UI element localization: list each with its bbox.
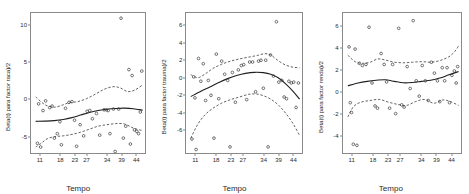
data-point [388,107,391,110]
x-tick-label: 18 [370,157,377,163]
data-point [122,137,125,140]
x-tick-mark [86,153,87,156]
x-tick-label: 44 [133,157,140,163]
data-point [36,142,39,145]
data-point [195,148,198,151]
data-point [71,100,74,103]
x-tick-mark [372,153,373,156]
upper-confidence-band [191,54,300,78]
data-point [394,112,397,115]
data-point [262,87,265,90]
data-point [42,109,45,112]
data-point [297,82,300,85]
x-axis-label: Tempo [156,184,312,193]
data-point [224,73,227,76]
x-tick-mark [216,153,217,156]
x-tick-mark [451,153,452,156]
x-tick-label: 39 [275,157,282,163]
figure-root: Beta(t) para factor raca)/2-505101118232… [0,0,469,194]
x-tick-label: 11 [192,157,198,163]
data-point [361,64,364,67]
data-point [400,104,403,107]
x-tick-mark [107,153,108,156]
chart-canvas [31,13,145,153]
data-point [255,90,258,93]
x-tick-mark [351,153,352,156]
data-point [411,19,414,22]
x-tick-mark [263,153,264,156]
plot-area: -4-2024611182327343944 [342,12,462,154]
data-point [194,97,197,100]
data-point [373,105,376,108]
data-point [350,111,353,114]
data-point [197,57,200,60]
data-point [39,146,42,149]
data-point [246,98,249,101]
data-point [205,99,208,102]
data-point [56,132,59,135]
data-point [364,63,367,66]
x-tick-mark [60,153,61,156]
fitted-curve [347,72,458,86]
data-point [448,101,451,104]
fitted-curve [36,108,143,121]
data-point [347,46,350,49]
data-point [370,82,373,85]
data-point [229,146,232,149]
x-tick-label: 27 [83,157,90,163]
x-tick-label: 18 [57,157,64,163]
x-tick-mark [436,153,437,156]
data-point [64,107,67,110]
x-tick-label: 34 [104,157,111,163]
data-point [441,66,444,69]
data-point [109,132,112,135]
data-point [79,123,82,126]
data-point [453,70,456,73]
x-axis-label: Tempo [313,184,469,193]
chart-canvas [186,13,302,153]
x-tick-label: 27 [397,157,404,163]
data-point [91,117,94,120]
x-axis-label: Tempo [0,184,156,193]
x-tick-label: 34 [260,157,267,163]
data-point [73,119,76,122]
data-point [385,81,388,84]
x-tick-label: 23 [72,157,79,163]
data-point [44,100,47,103]
x-tick-mark [400,153,401,156]
x-tick-label: 44 [290,157,297,163]
plot-area: -6-4-2024611182327343944 [185,12,303,154]
data-point [391,63,394,66]
data-point [227,79,230,82]
data-point [231,71,234,74]
data-point [456,65,459,68]
data-point [88,109,91,112]
data-point [408,87,411,90]
data-point [237,69,240,72]
data-point [82,135,85,138]
data-point [405,65,408,68]
data-point [379,52,382,55]
data-point [114,150,117,153]
x-tick-label: 27 [239,157,246,163]
chart-panel-2: Beta(t) para factor renda)/2-4-202461118… [313,0,469,194]
data-point [352,143,355,146]
data-point [295,106,298,109]
data-point [234,101,237,104]
data-point [37,103,40,106]
data-point [436,79,439,82]
data-point [397,27,400,30]
data-point [137,132,140,135]
data-point [53,137,56,140]
data-point [433,72,436,75]
data-point [278,81,281,84]
y-axis-label: Beta(t) para factor raca)/2 [0,0,14,194]
x-tick-mark [421,153,422,156]
data-point [139,111,142,114]
data-point [421,64,424,67]
x-tick-label: 23 [385,157,392,163]
x-tick-mark [195,153,196,156]
x-tick-label: 39 [433,157,440,163]
data-point [59,120,62,123]
x-tick-label: 44 [448,157,455,163]
